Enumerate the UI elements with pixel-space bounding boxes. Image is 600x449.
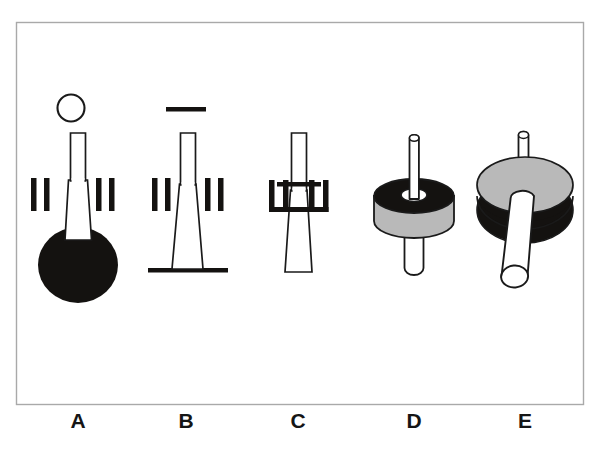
panel-b-tick-mark bbox=[218, 178, 224, 211]
panel-b-stalk-neck bbox=[181, 133, 196, 185]
figure-canvas: A B bbox=[0, 0, 600, 449]
figure-panel: A B bbox=[0, 0, 600, 449]
panel-c-comb-bar bbox=[296, 207, 329, 212]
panel-a-head-circle-icon bbox=[58, 95, 85, 122]
panel-b-head-bar bbox=[166, 107, 206, 112]
panel-label-b: B bbox=[178, 409, 193, 432]
panel-c-flared-body bbox=[285, 190, 312, 272]
panel-label-e: E bbox=[518, 409, 532, 432]
panel-d-upper-rod-cap bbox=[410, 135, 419, 141]
panel-e-upper-rod-cap bbox=[519, 132, 529, 139]
panel-b-neck-seam-mask bbox=[182, 182, 195, 187]
panel-a-stalk-neck bbox=[71, 133, 86, 181]
panel-a-neck-seam-mask bbox=[72, 178, 85, 183]
panel-label-d: D bbox=[406, 409, 421, 432]
panel-d-upper-rod bbox=[410, 135, 419, 199]
panel-a-tick-mark bbox=[109, 178, 115, 211]
panel-label-a: A bbox=[70, 409, 85, 432]
panel-a-tick-mark bbox=[44, 178, 50, 211]
panel-a-tick-mark bbox=[96, 178, 102, 211]
panel-b-tick-mark bbox=[152, 178, 158, 211]
panel-b-tick-mark bbox=[205, 178, 211, 211]
panel-c-neck-seam-mask bbox=[293, 188, 306, 193]
panel-c-cross-plate bbox=[277, 182, 321, 187]
panel-a-flared-body bbox=[65, 180, 92, 240]
panel-b-tick-mark bbox=[165, 178, 171, 211]
panel-a-tick-mark bbox=[31, 178, 37, 211]
panel-label-c: C bbox=[290, 409, 305, 432]
